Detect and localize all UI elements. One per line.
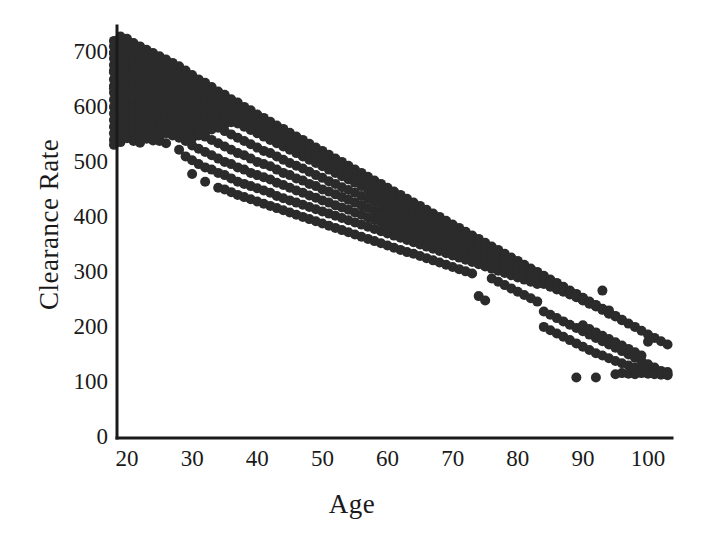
data-point bbox=[636, 351, 646, 361]
x-tick-label: 100 bbox=[613, 446, 683, 472]
data-point bbox=[591, 373, 601, 383]
y-tick-label: 600 bbox=[50, 94, 108, 120]
x-tick-label: 60 bbox=[353, 446, 423, 472]
data-point bbox=[200, 177, 210, 187]
x-tick-label: 50 bbox=[287, 446, 357, 472]
data-point bbox=[187, 169, 197, 179]
x-tick-label: 40 bbox=[222, 446, 292, 472]
data-point bbox=[663, 340, 673, 350]
x-axis-title: Age bbox=[0, 489, 704, 520]
x-tick-label: 90 bbox=[548, 446, 618, 472]
data-point bbox=[597, 286, 607, 296]
y-tick-label: 100 bbox=[50, 369, 108, 395]
data-point bbox=[532, 297, 542, 307]
y-tick-label: 200 bbox=[50, 314, 108, 340]
data-point bbox=[663, 370, 673, 380]
y-axis-title: Clearance Rate bbox=[34, 139, 65, 310]
data-point bbox=[480, 296, 490, 306]
x-tick-label: 80 bbox=[483, 446, 553, 472]
scatter-plot-figure: 0100200300400500600700 20304050607080901… bbox=[0, 0, 704, 558]
x-tick-label: 20 bbox=[92, 446, 162, 472]
data-point bbox=[571, 373, 581, 383]
data-markers-layer bbox=[109, 32, 673, 383]
y-tick-label: 700 bbox=[50, 39, 108, 65]
data-point bbox=[161, 138, 171, 148]
x-tick-label: 70 bbox=[418, 446, 488, 472]
x-tick-label: 30 bbox=[157, 446, 227, 472]
data-point bbox=[467, 269, 477, 279]
